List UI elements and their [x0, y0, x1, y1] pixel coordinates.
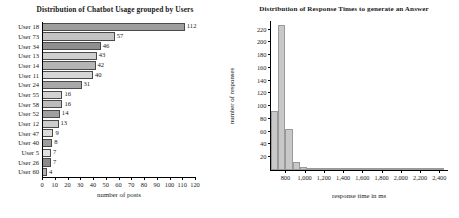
- bar-value-label: 9: [55, 129, 58, 138]
- x-axis-tick-label: 1,600: [355, 174, 369, 181]
- bar-row: User 3446: [42, 42, 195, 50]
- bar-value-label: 7: [53, 148, 56, 157]
- bar-row: User 1343: [42, 52, 195, 60]
- x-axis-tick-label: 40: [90, 181, 96, 188]
- x-axis-tick-label: 1,400: [336, 174, 350, 181]
- y-axis-tick: [268, 67, 271, 68]
- histogram-title: Distribution of Response Times to genera…: [229, 5, 459, 13]
- bar-chart-y-axis: [42, 22, 43, 178]
- bar: [42, 61, 96, 69]
- bar-category-label: User 26: [18, 158, 39, 167]
- bar-value-label: 43: [99, 51, 106, 60]
- bar-value-label: 40: [95, 71, 102, 80]
- y-axis-tick-label: 100: [257, 102, 267, 109]
- bar-category-label: User 55: [18, 90, 39, 99]
- x-axis-tick: [106, 177, 107, 180]
- x-axis-tick: [93, 177, 94, 180]
- x-axis-tick-label: 30: [77, 181, 83, 188]
- x-axis-tick-label: 1,200: [317, 174, 331, 181]
- x-axis-tick-label: 120: [190, 181, 200, 188]
- bar: [42, 149, 51, 157]
- bar-category-label: User 13: [18, 51, 39, 60]
- bar-chart-panel: Distribution of Chatbot Usage grouped by…: [0, 0, 230, 218]
- bar-value-label: 42: [98, 61, 105, 70]
- bar-value-label: 13: [61, 119, 68, 128]
- x-axis-tick-label: 800: [281, 174, 290, 181]
- bar-category-label: User 11: [19, 71, 39, 80]
- x-axis-tick-label: 0: [40, 181, 43, 188]
- bar: [42, 71, 93, 79]
- bar-category-label: User 52: [18, 109, 39, 118]
- y-axis-tick-label: 20: [260, 153, 266, 160]
- bar: [42, 129, 53, 137]
- x-axis-tick: [144, 177, 145, 180]
- x-axis-tick-label: 80: [141, 181, 147, 188]
- y-axis-tick-label: 200: [257, 38, 267, 45]
- bar-row: User 18112: [42, 23, 195, 31]
- x-axis-tick-label: 70: [128, 181, 134, 188]
- bar-value-label: 112: [187, 22, 197, 31]
- y-axis-tick-label: 180: [257, 51, 267, 58]
- bar: [42, 110, 60, 118]
- bar-chart-plot-area: User 18112User 7357User 3446User 1343Use…: [42, 22, 195, 177]
- x-axis-tick-label: 90: [154, 181, 160, 188]
- y-axis-tick: [268, 41, 271, 42]
- x-axis-tick-label: 2,000: [394, 174, 408, 181]
- bar-row: User 2431: [42, 81, 195, 89]
- histogram-plot-area: [271, 22, 447, 170]
- x-axis-tick-label: 1,800: [375, 174, 389, 181]
- bar-value-label: 4: [49, 168, 52, 177]
- bar: [42, 23, 185, 31]
- x-axis-tick: [119, 177, 120, 180]
- bar-category-label: User 47: [18, 129, 39, 138]
- bar-row: User 5214: [42, 110, 195, 118]
- bar-category-label: User 34: [18, 42, 39, 51]
- x-axis-tick: [420, 170, 421, 173]
- x-axis-tick-label: 100: [165, 181, 175, 188]
- bar-category-label: User 60: [18, 167, 39, 176]
- x-axis-tick: [382, 170, 383, 173]
- x-axis-tick-label: 20: [64, 181, 70, 188]
- y-axis-tick-label: 60: [260, 127, 266, 134]
- bar-value-label: 8: [54, 138, 57, 147]
- bar-row: User 1213: [42, 120, 195, 128]
- bar: [42, 42, 101, 50]
- bar-row: User 7357: [42, 32, 195, 40]
- x-axis-tick: [343, 170, 344, 173]
- x-axis-tick-label: 1,000: [298, 174, 312, 181]
- x-axis-tick: [55, 177, 56, 180]
- bar-row: User 1140: [42, 71, 195, 79]
- x-axis-tick: [42, 177, 43, 180]
- bar-category-label: User 14: [18, 61, 39, 70]
- bar-row: User 1442: [42, 61, 195, 69]
- histogram-bin: [278, 25, 285, 170]
- bar-category-label: User 24: [18, 80, 39, 89]
- y-axis-tick: [268, 131, 271, 132]
- bar-row: User 479: [42, 129, 195, 137]
- y-axis-tick: [268, 80, 271, 81]
- bar-value-label: 57: [117, 32, 124, 41]
- bar-row: User 267: [42, 158, 195, 166]
- x-axis-tick-label: 10: [52, 181, 58, 188]
- bar-row: User 5816: [42, 100, 195, 108]
- histogram-bin: [285, 129, 292, 170]
- x-axis-tick-label: 2,200: [413, 174, 427, 181]
- bar-row: User 408: [42, 139, 195, 147]
- histogram-x-axis: 8001,0001,2001,4001,6001,8002,0002,2002,…: [270, 170, 448, 171]
- bar-row: User 604: [42, 168, 195, 176]
- x-axis-tick: [80, 177, 81, 180]
- histogram-bin: [293, 162, 300, 170]
- bar: [42, 139, 52, 147]
- y-axis-tick-label: 160: [257, 63, 267, 70]
- y-axis-tick-label: 120: [257, 89, 267, 96]
- bar-value-label: 16: [64, 100, 71, 109]
- x-axis-tick: [170, 177, 171, 180]
- bar: [42, 52, 97, 60]
- bar-category-label: User 5: [22, 148, 39, 157]
- x-axis-tick-label: 60: [115, 181, 121, 188]
- bar-category-label: User 12: [18, 119, 39, 128]
- bar: [42, 81, 82, 89]
- histogram-y-axis: 20406080100120140160180200220: [270, 21, 271, 171]
- y-axis-tick: [268, 105, 271, 106]
- x-axis-tick: [68, 177, 69, 180]
